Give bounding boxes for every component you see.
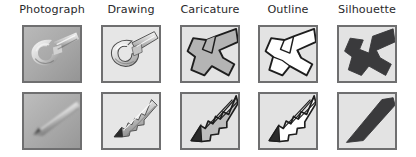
cell-pencil-caricature — [180, 92, 240, 150]
pencil-caricature-image — [182, 94, 238, 148]
cell-wrench-caricature — [180, 25, 240, 83]
wrench-outline-image — [260, 27, 316, 81]
column-header-outline: Outline — [246, 2, 330, 18]
cell-pencil-silhouette — [337, 92, 397, 150]
cell-wrench-outline — [258, 25, 318, 83]
style-comparison-figure: Photograph Drawing Caricature Outline Si… — [0, 0, 416, 157]
column-header-caricature: Caricature — [168, 2, 252, 18]
wrench-caricature-image — [182, 27, 238, 81]
cell-wrench-photograph — [22, 25, 82, 83]
column-header-photograph: Photograph — [10, 2, 94, 18]
pencil-outline-image — [260, 94, 316, 148]
wrench-drawing-image — [103, 27, 159, 81]
cell-wrench-silhouette — [337, 25, 397, 83]
cell-pencil-outline — [258, 92, 318, 150]
column-header-silhouette: Silhouette — [325, 2, 409, 18]
cell-wrench-drawing — [101, 25, 161, 83]
column-header-drawing: Drawing — [89, 2, 173, 18]
cell-pencil-photograph — [22, 92, 82, 150]
cell-pencil-drawing — [101, 92, 161, 150]
wrench-photograph-image — [24, 27, 80, 81]
wrench-silhouette-image — [339, 27, 395, 81]
pencil-drawing-image — [103, 94, 159, 148]
pencil-photograph-image — [24, 94, 80, 148]
pencil-silhouette-image — [339, 94, 395, 148]
